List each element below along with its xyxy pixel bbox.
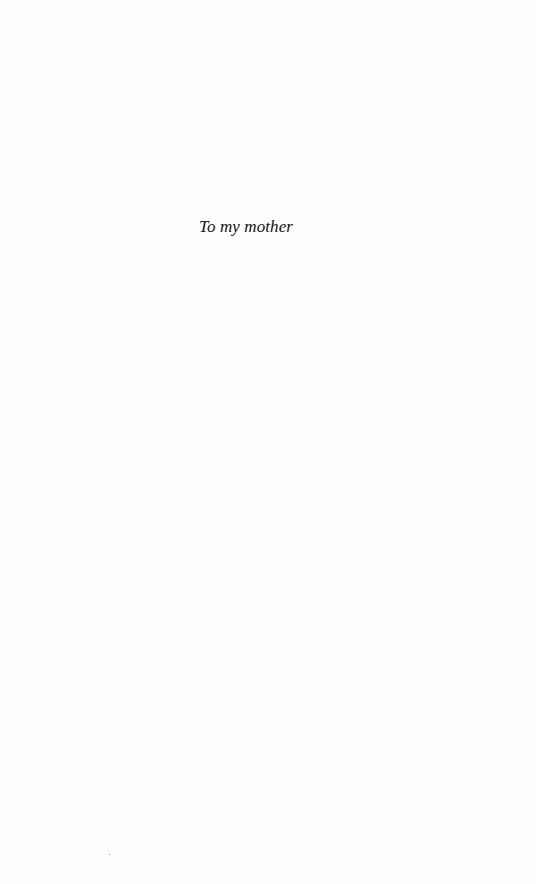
dedication-text: To my mother — [199, 217, 293, 237]
book-page: To my mother — [0, 0, 536, 884]
scan-speck — [109, 854, 110, 855]
